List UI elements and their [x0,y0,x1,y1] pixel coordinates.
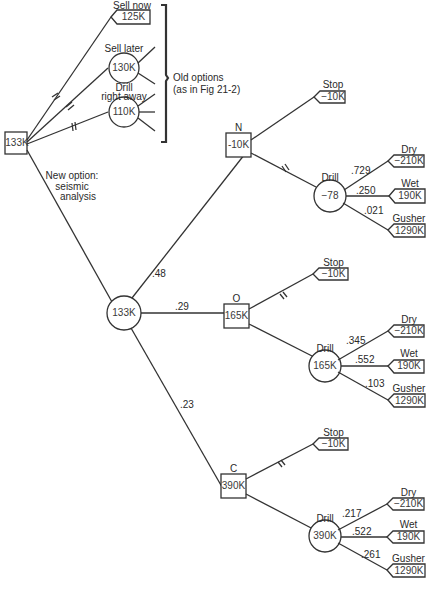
c-dry-value: −210K [393,498,424,510]
sell-now-label: Sell now [112,0,152,11]
o-drill-value: 165K [309,360,341,372]
c-prob-dry: .217 [342,508,361,519]
c-prob-gusher: .261 [361,549,380,560]
n-gusher-value: 1290K [394,225,425,237]
o-gusher-value: 1290K [394,395,425,407]
o-prob-dry: .345 [346,335,365,346]
n-drill-label: Drill [315,172,345,183]
prob-o: .29 [175,301,189,312]
o-stop-label: Stop [319,257,348,268]
c-stop-label: Stop [319,427,348,438]
o-decision-value: 165K [224,310,249,322]
c-gusher-label: Gusher [391,553,426,564]
c-stop-value: −10K [319,438,348,450]
o-drill-label: Drill [310,343,340,354]
o-wet-label: Wet [394,348,424,359]
o-result-label: O [224,293,249,304]
o-prob-wet: .552 [355,354,374,365]
o-dry-value: −210K [394,325,424,337]
sell-now-value: 125K [117,11,150,23]
sell-later-value: 130K [109,62,139,74]
c-gusher-value: 1290K [393,565,425,577]
n-gusher-label: Gusher [392,213,426,224]
o-prob-gusher: .103 [365,378,384,389]
c-decision-value: 390K [221,480,246,492]
c-dry-label: Dry [393,487,424,498]
n-result-label: N [226,122,251,133]
sell-later-label: Sell later [100,43,148,54]
n-prob-gusher: .021 [364,205,383,216]
root-value: 133K [5,137,29,149]
n-drill-value: −78 [314,190,346,202]
new-option-label-3: analysis [46,191,110,202]
new-option-label-1: New option: [40,170,104,181]
n-dry-value: −210K [394,155,424,167]
o-stop-value: −10K [319,268,348,280]
old-options-label: Old options [173,72,224,83]
n-wet-value: 190K [395,190,425,202]
n-stop-value: −10K [320,91,346,103]
c-drill-value: 390K [309,530,341,542]
n-dry-label: Dry [394,144,424,155]
n-wet-label: Wet [395,178,425,189]
c-result-label: C [221,463,246,474]
c-wet-label: Wet [393,519,424,530]
seismic-value: 133K [108,307,140,319]
drill-right-away-label-2: right away [96,91,152,102]
c-prob-wet: .522 [352,526,371,537]
o-gusher-label: Gusher [392,383,426,394]
c-drill-label: Drill [310,513,340,524]
o-dry-label: Dry [394,314,424,325]
old-options-reference: (as in Fig 21-2) [173,84,240,95]
prob-c: .23 [180,399,194,410]
n-decision-value: -10K [226,139,251,151]
n-prob-wet: .250 [356,185,375,196]
n-prob-dry: .729 [351,165,370,176]
prob-n: .48 [152,268,166,279]
n-stop-label: Stop [320,79,346,90]
o-wet-value: 190K [394,360,424,372]
c-wet-value: 190K [393,531,424,543]
drill-right-away-value: 110K [109,106,139,118]
